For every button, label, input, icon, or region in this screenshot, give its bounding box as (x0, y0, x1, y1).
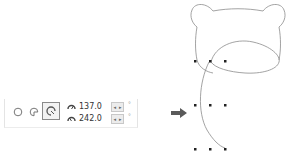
bear-head-outline[interactable] (191, 4, 285, 73)
start-angle-field: 137.0 (67, 101, 111, 112)
drawing-canvas[interactable] (185, 0, 291, 166)
end-angle-unit: ° (128, 112, 131, 119)
arc-segment[interactable] (200, 62, 225, 148)
start-angle-unit: ° (128, 100, 131, 107)
ellipse-mode-button[interactable] (11, 105, 25, 119)
arc-mode-button[interactable] (42, 102, 60, 120)
pie-icon (29, 107, 39, 117)
ellipse-arc[interactable] (211, 41, 279, 73)
end-angle-spinner[interactable]: ◂▸ (111, 114, 124, 124)
ellipse-property-bar: 137.0 ◂▸ ° 242.0 ◂▸ ° (4, 99, 138, 128)
arc-icon (45, 105, 57, 117)
increment-icon[interactable]: ▸ (118, 115, 124, 123)
end-angle-value[interactable]: 242.0 (79, 114, 111, 124)
start-angle-value[interactable]: 137.0 (79, 102, 111, 112)
selection-handles[interactable] (194, 60, 227, 151)
end-angle-field: 242.0 (67, 113, 111, 124)
start-angle-spinner[interactable]: ◂▸ (111, 102, 124, 112)
increment-icon[interactable]: ▸ (118, 103, 124, 111)
end-angle-icon (67, 115, 76, 122)
pie-mode-button[interactable] (27, 105, 41, 119)
start-angle-icon (67, 103, 76, 110)
ellipse-icon (13, 107, 23, 117)
